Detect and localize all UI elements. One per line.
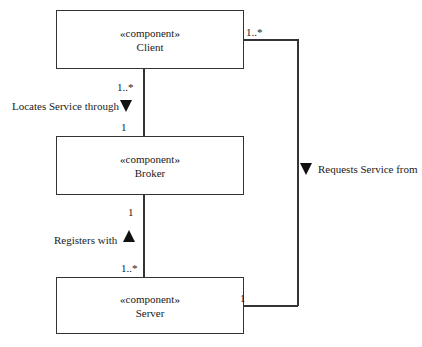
broker-name: Broker <box>135 166 166 180</box>
client-broker-connector <box>143 69 145 136</box>
client-server-connector-vertical <box>297 39 299 306</box>
client-server-server-multiplicity: 1 <box>240 292 246 304</box>
client-name: Client <box>137 40 164 54</box>
client-broker-label: Locates Service through <box>12 100 119 112</box>
broker-server-connector <box>143 195 145 277</box>
server-component: «component» Server <box>56 277 244 334</box>
server-stereotype: «component» <box>120 292 180 306</box>
broker-server-label: Registers with <box>54 234 117 246</box>
client-server-label: Requests Service from <box>318 163 418 175</box>
arrow-down-icon <box>300 163 312 175</box>
arrow-down-icon <box>120 100 132 112</box>
client-stereotype: «component» <box>120 26 180 40</box>
client-broker-broker-multiplicity: 1 <box>121 121 127 133</box>
broker-component: «component» Broker <box>56 136 244 195</box>
client-server-connector-top <box>244 39 298 41</box>
server-name: Server <box>136 306 165 320</box>
client-server-client-multiplicity: 1..* <box>246 26 263 38</box>
broker-stereotype: «component» <box>120 152 180 166</box>
broker-server-server-multiplicity: 1..* <box>121 262 138 274</box>
client-component: «component» Client <box>56 10 244 69</box>
client-broker-client-multiplicity: 1..* <box>117 81 134 93</box>
arrow-up-icon <box>123 230 135 242</box>
broker-server-broker-multiplicity: 1 <box>128 206 134 218</box>
client-server-connector-bottom <box>244 305 298 307</box>
